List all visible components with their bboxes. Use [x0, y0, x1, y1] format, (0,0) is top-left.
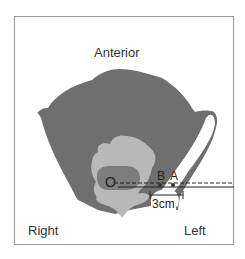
measurement-label: 3cm: [151, 198, 176, 210]
point-a-marker: [171, 183, 175, 187]
label-right: Right: [28, 224, 58, 237]
point-b-marker: [158, 183, 162, 187]
point-o-label: O: [105, 175, 116, 189]
label-anterior: Anterior: [94, 46, 140, 59]
label-left: Left: [184, 224, 206, 237]
point-b-label: B: [157, 170, 165, 182]
point-a-label: A: [170, 170, 178, 182]
pelvis-cross-section: [0, 0, 245, 259]
